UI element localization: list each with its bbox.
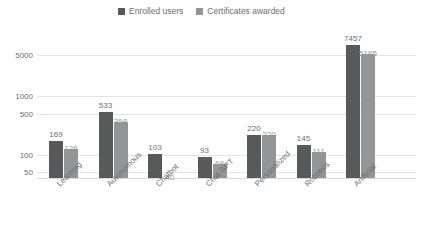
bar-group: 169126 xyxy=(49,40,78,178)
bar-chart: Enrolled users and certificates awarded … xyxy=(0,0,421,233)
y-axis-tick-label: 50 xyxy=(24,168,33,177)
bar[interactable] xyxy=(346,45,360,178)
bar[interactable] xyxy=(297,145,311,178)
legend-item-enrolled-users[interactable]: Enrolled users xyxy=(118,6,183,16)
legend-label: Certificates awarded xyxy=(207,6,284,16)
bar[interactable] xyxy=(361,54,375,178)
bar[interactable] xyxy=(99,112,113,178)
bar[interactable] xyxy=(49,141,63,178)
bar-group: 9368 xyxy=(198,40,227,178)
bar-group: 145111 xyxy=(297,40,326,178)
bar-group: 74575165 xyxy=(346,40,375,178)
bar-group: 533358 xyxy=(99,40,128,178)
y-axis: 5010050010005000 xyxy=(0,40,33,179)
y-axis-tick-label: 5000 xyxy=(15,50,33,59)
bar-value-label: 358 xyxy=(114,117,127,126)
bar-value-label: 5165 xyxy=(359,49,377,58)
bar-value-label: 103 xyxy=(148,143,161,152)
bar-value-label: 169 xyxy=(49,130,62,139)
y-axis-tick-label: 100 xyxy=(20,150,33,159)
bar-value-label: 126 xyxy=(64,144,77,153)
bar-value-label: 220 xyxy=(262,130,275,139)
bar-value-label: 145 xyxy=(297,134,310,143)
bar-value-label: 533 xyxy=(99,101,112,110)
y-axis-tick-label: 500 xyxy=(20,109,33,118)
legend-swatch-icon xyxy=(118,8,125,15)
plot-area: 1691265333581034093682202201451117457516… xyxy=(37,40,416,178)
legend-label: Enrolled users xyxy=(129,6,183,16)
bar-group: 220220 xyxy=(247,40,276,178)
bar-value-label: 111 xyxy=(312,147,324,156)
chart-legend: Enrolled users Certificates awarded xyxy=(118,6,285,16)
chart-title: Enrolled users and certificates awarded xyxy=(6,0,227,1)
bar-value-label: 220 xyxy=(247,124,260,133)
y-axis-tick-label: 1000 xyxy=(15,91,33,100)
bar-group: 10340 xyxy=(148,40,177,178)
bar[interactable] xyxy=(247,135,261,178)
legend-swatch-icon xyxy=(196,8,203,15)
bar-value-label: 7457 xyxy=(344,34,362,43)
legend-item-certificates-awarded[interactable]: Certificates awarded xyxy=(196,6,284,16)
bar-value-label: 93 xyxy=(200,146,209,155)
